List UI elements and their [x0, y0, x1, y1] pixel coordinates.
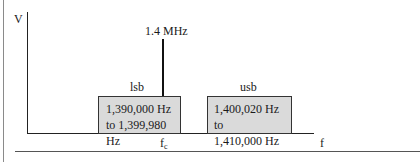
lsb-range-line2: to 1,399,980 Hz — [106, 117, 180, 149]
bottom-rule — [15, 151, 420, 152]
y-axis — [27, 12, 28, 133]
fc-subscript: c — [164, 142, 168, 151]
y-axis-label: V — [14, 13, 23, 25]
lower-sideband-box: 1,390,000 Hz to 1,399,980 Hz — [98, 96, 181, 134]
carrier-axis-mark: fc — [160, 137, 168, 151]
upper-sideband-box: 1,400,020 Hz to 1,410,000 Hz — [207, 96, 292, 134]
left-border-rule — [3, 0, 4, 162]
usb-range-line1: 1,400,020 Hz to — [214, 101, 291, 133]
lsb-label: lsb — [130, 81, 144, 93]
carrier-frequency-label: 1.4 MHz — [145, 25, 188, 37]
usb-label: usb — [240, 81, 257, 93]
x-axis-label: f — [320, 137, 324, 149]
lsb-range-line1: 1,390,000 Hz — [106, 101, 180, 117]
usb-range-line2: 1,410,000 Hz — [214, 133, 291, 149]
